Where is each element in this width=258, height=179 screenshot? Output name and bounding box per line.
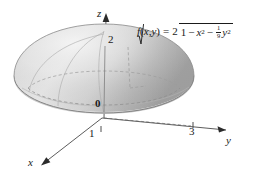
tick-label-x-1: 1 (89, 127, 95, 139)
radicand-minus-1: − (188, 26, 194, 38)
axis-label-z: z (97, 7, 101, 19)
function-equation: f(x, y) = 2 1 − x2 − 1 9 y2 (137, 23, 233, 39)
fraction-denominator: 9 (216, 32, 221, 40)
equation-coefficient: 2 (172, 25, 178, 37)
axis-ticks (101, 122, 193, 132)
axis-x (41, 118, 102, 166)
tick-label-y-3: 3 (189, 125, 195, 137)
radicand-fraction: 1 9 (216, 25, 221, 39)
tick-label-z-2: 2 (108, 33, 114, 45)
radicand-minus-2: − (207, 26, 213, 38)
origin-label-0: 0 (95, 97, 101, 109)
math-figure: z 2 0 1 3 y x f(x, y) = 2 1 − x2 − 1 9 y… (0, 0, 258, 179)
radical-sign-icon (137, 23, 144, 45)
axis-label-y: y (226, 134, 231, 146)
axis-y-front-segment (104, 118, 191, 126)
equation-radical: 1 − x2 − 1 9 y2 (179, 23, 233, 39)
equation-equals: = (163, 25, 169, 37)
equation-close-paren: ) (156, 25, 160, 37)
axis-label-x: x (28, 156, 33, 168)
axis-y (102, 118, 226, 133)
equation-radicand: 1 − x2 − 1 9 y2 (179, 23, 233, 39)
radicand-one: 1 (181, 26, 187, 38)
